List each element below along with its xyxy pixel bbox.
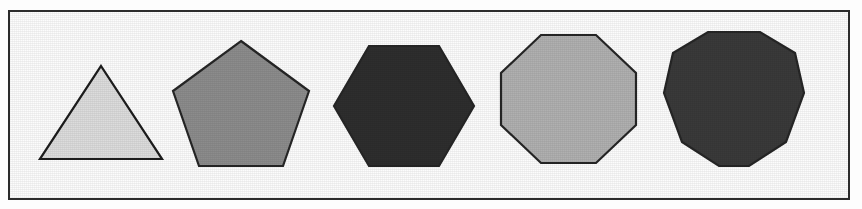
shape-decagon bbox=[662, 30, 810, 172]
hexagon-polygon bbox=[334, 46, 474, 166]
triangle-polygon bbox=[40, 66, 162, 159]
shape-triangle bbox=[38, 64, 168, 165]
octagon-polygon bbox=[501, 35, 636, 163]
figure-root bbox=[0, 0, 862, 209]
decagon-polygon bbox=[664, 32, 804, 166]
pentagon-polygon bbox=[173, 41, 309, 166]
shape-hexagon bbox=[332, 44, 480, 172]
shape-plate-frame bbox=[8, 10, 850, 200]
shape-octagon bbox=[499, 33, 642, 169]
shape-pentagon bbox=[171, 39, 315, 172]
